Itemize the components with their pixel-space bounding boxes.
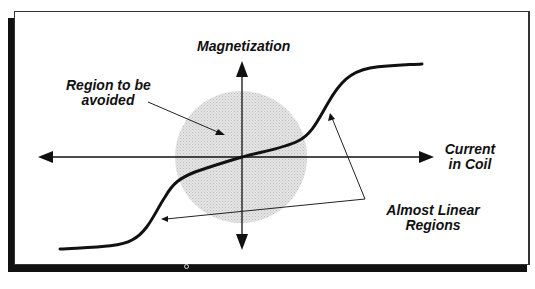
linear-upper-arrow-icon [328, 113, 335, 121]
x-axis-label-line2: in Coil [440, 157, 500, 172]
avoid-region-label-line1: Region to be [66, 78, 150, 93]
x-axis-label: Current in Coil [440, 142, 500, 172]
x-axis-left-arrow-icon [38, 151, 53, 163]
avoid-region-label-line2: avoided [66, 93, 150, 108]
linear-regions-label-line1: Almost Linear [383, 203, 483, 218]
y-axis-up-arrow-icon [236, 61, 248, 77]
y-axis-label: Magnetization [197, 39, 290, 54]
y-axis-down-arrow-icon [236, 234, 248, 250]
x-axis-label-line1: Current [440, 142, 500, 157]
x-axis-right-arrow-icon [419, 151, 434, 163]
avoid-region-label: Region to be avoided [66, 78, 150, 108]
linear-regions-label: Almost Linear Regions [383, 203, 483, 233]
frame-anchor-dot [184, 264, 189, 269]
linear-regions-label-line2: Regions [383, 218, 483, 233]
linear-lower-arrow-icon [161, 216, 168, 222]
